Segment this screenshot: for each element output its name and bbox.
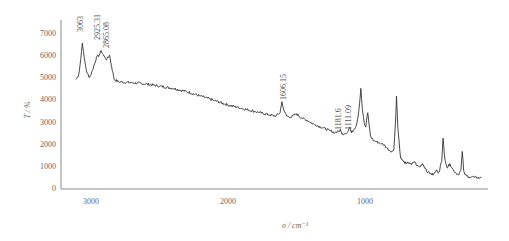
spectrum-chart: 01000200030004000500060007000 3000200010…: [0, 0, 509, 241]
x-tick-label: 2000: [220, 197, 236, 206]
y-tick-label: 1000: [40, 162, 56, 171]
x-axis-title: σ / cm⁻¹: [282, 221, 309, 230]
y-tick-label: 2000: [40, 140, 56, 149]
y-axis: 01000200030004000500060007000: [40, 20, 61, 193]
y-tick-label: 3000: [40, 118, 56, 127]
peak-label: 1181.6: [334, 108, 343, 130]
x-tick-label: 1000: [357, 197, 373, 206]
x-axis: 300020001000: [61, 189, 488, 206]
y-tick-label: 0: [52, 184, 56, 193]
y-tick-label: 4000: [40, 95, 56, 104]
peak-annotations: 30632925.312865.081606.151181.61111.09: [76, 14, 353, 130]
y-axis-title: T / %: [23, 101, 32, 119]
peak-label: 3063: [76, 16, 85, 32]
peak-label: 1606.15: [279, 74, 288, 100]
peak-label: 2865.08: [102, 22, 111, 48]
y-tick-label: 6000: [40, 51, 56, 60]
x-tick-label: 3000: [83, 197, 99, 206]
peak-label: 1111.09: [344, 105, 353, 130]
spectrum-line: [76, 43, 482, 179]
y-tick-label: 7000: [40, 29, 56, 38]
y-tick-label: 5000: [40, 73, 56, 82]
peak-label: 2925.31: [93, 14, 102, 40]
